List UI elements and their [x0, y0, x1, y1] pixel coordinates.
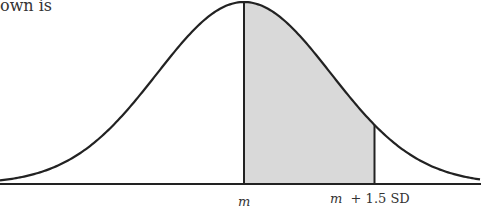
bell-curve — [0, 2, 480, 180]
shaded-area — [244, 2, 375, 184]
upper-bound-m: m — [330, 191, 342, 206]
upper-bound-sd: + 1.5 SD — [351, 191, 410, 206]
upper-bound-label: m + 1.5 SD — [330, 191, 410, 206]
mean-label: m — [238, 194, 250, 209]
normal-curve-diagram — [0, 0, 481, 212]
